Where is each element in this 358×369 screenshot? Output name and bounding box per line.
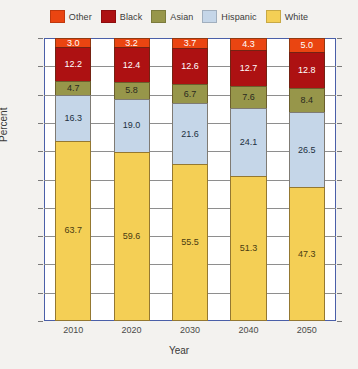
y-tick-mark-right-80 bbox=[337, 95, 342, 96]
bar-segment-white-2040[interactable]: 51.3 bbox=[230, 176, 266, 321]
legend-swatch-black bbox=[101, 10, 116, 23]
x-tick-label-2050: 2050 bbox=[278, 325, 336, 335]
legend-item-white: White bbox=[266, 10, 309, 23]
bar-segment-other-2040[interactable]: 4.3 bbox=[230, 38, 266, 50]
x-tick-label-2010: 2010 bbox=[44, 325, 102, 335]
bar-segment-other-2050[interactable]: 5.0 bbox=[289, 38, 325, 52]
y-tick-mark-right-40 bbox=[337, 208, 342, 209]
legend-label-hispanic: Hispanic bbox=[221, 12, 256, 22]
stacked-bar-2050[interactable]: 5.012.88.426.547.3 bbox=[289, 38, 325, 321]
stacked-bar-2020[interactable]: 3.212.45.819.059.6 bbox=[114, 38, 150, 321]
legend-label-white: White bbox=[285, 12, 309, 22]
bar-segment-black-2040[interactable]: 12.7 bbox=[230, 50, 266, 86]
y-tick-mark-right-20 bbox=[337, 264, 342, 265]
bar-segment-hispanic-2020[interactable]: 19.0 bbox=[114, 99, 150, 153]
legend-swatch-white bbox=[266, 10, 281, 23]
y-axis-title: Percent bbox=[0, 108, 9, 142]
bar-segment-white-2030[interactable]: 55.5 bbox=[172, 164, 208, 321]
bar-segment-hispanic-2030[interactable]: 21.6 bbox=[172, 103, 208, 164]
bar-segment-white-2050[interactable]: 47.3 bbox=[289, 187, 325, 321]
legend-swatch-other bbox=[50, 10, 65, 23]
chart-plot-area: 0102030405060708090100 3.012.24.716.363.… bbox=[44, 38, 336, 321]
legend-item-black: Black bbox=[101, 10, 143, 23]
bar-slot-2020: 3.212.45.819.059.6 bbox=[102, 38, 160, 321]
x-axis-title: Year bbox=[0, 345, 358, 356]
legend-label-asian: Asian bbox=[170, 12, 193, 22]
y-tick-mark-left-50 bbox=[38, 180, 43, 181]
bar-segment-other-2030[interactable]: 3.7 bbox=[172, 38, 208, 48]
y-tick-mark-right-70 bbox=[337, 123, 342, 124]
bar-segment-asian-2010[interactable]: 4.7 bbox=[55, 81, 91, 94]
bar-segment-asian-2020[interactable]: 5.8 bbox=[114, 82, 150, 98]
bar-segment-asian-2050[interactable]: 8.4 bbox=[289, 88, 325, 112]
stacked-bar-2030[interactable]: 3.712.66.721.655.5 bbox=[172, 38, 208, 321]
bar-segment-white-2020[interactable]: 59.6 bbox=[114, 152, 150, 321]
x-axis-ticks: 20102020203020402050 bbox=[44, 325, 336, 335]
y-tick-mark-left-70 bbox=[38, 123, 43, 124]
bar-segment-asian-2030[interactable]: 6.7 bbox=[172, 84, 208, 103]
bar-segment-white-2010[interactable]: 63.7 bbox=[55, 141, 91, 321]
y-tick-mark-left-60 bbox=[38, 151, 43, 152]
legend-item-asian: Asian bbox=[151, 10, 193, 23]
y-tick-mark-right-0 bbox=[337, 321, 342, 322]
y-tick-mark-left-20 bbox=[38, 264, 43, 265]
bar-segment-other-2020[interactable]: 3.2 bbox=[114, 38, 150, 47]
legend-label-black: Black bbox=[120, 12, 143, 22]
bar-segment-hispanic-2050[interactable]: 26.5 bbox=[289, 112, 325, 187]
y-tick-mark-left-30 bbox=[38, 236, 43, 237]
y-tick-mark-left-80 bbox=[38, 95, 43, 96]
bar-slot-2040: 4.312.77.624.151.3 bbox=[219, 38, 277, 321]
bar-segment-hispanic-2010[interactable]: 16.3 bbox=[55, 95, 91, 141]
stacked-bars: 3.012.24.716.363.73.212.45.819.059.63.71… bbox=[44, 38, 336, 321]
x-tick-label-2030: 2030 bbox=[161, 325, 219, 335]
legend-item-hispanic: Hispanic bbox=[202, 10, 256, 23]
y-tick-mark-right-90 bbox=[337, 66, 342, 67]
y-tick-mark-left-90 bbox=[38, 66, 43, 67]
y-tick-mark-right-50 bbox=[337, 180, 342, 181]
legend-label-other: Other bbox=[69, 12, 92, 22]
stacked-bar-2040[interactable]: 4.312.77.624.151.3 bbox=[230, 38, 266, 321]
y-tick-mark-left-40 bbox=[38, 208, 43, 209]
y-tick-mark-right-100 bbox=[337, 38, 342, 39]
bar-segment-black-2020[interactable]: 12.4 bbox=[114, 47, 150, 82]
y-tick-mark-right-60 bbox=[337, 151, 342, 152]
bar-slot-2010: 3.012.24.716.363.7 bbox=[44, 38, 102, 321]
bar-segment-hispanic-2040[interactable]: 24.1 bbox=[230, 108, 266, 176]
y-tick-mark-right-10 bbox=[337, 293, 342, 294]
bar-segment-other-2010[interactable]: 3.0 bbox=[55, 38, 91, 46]
legend-swatch-asian bbox=[151, 10, 166, 23]
bar-segment-black-2010[interactable]: 12.2 bbox=[55, 47, 91, 82]
legend-item-other: Other bbox=[50, 10, 92, 23]
stacked-bar-2010[interactable]: 3.012.24.716.363.7 bbox=[55, 38, 91, 321]
bar-segment-black-2030[interactable]: 12.6 bbox=[172, 48, 208, 84]
bar-slot-2030: 3.712.66.721.655.5 bbox=[161, 38, 219, 321]
y-tick-mark-left-0 bbox=[38, 321, 43, 322]
y-tick-mark-left-10 bbox=[38, 293, 43, 294]
y-tick-mark-right-30 bbox=[337, 236, 342, 237]
bar-slot-2050: 5.012.88.426.547.3 bbox=[278, 38, 336, 321]
bar-segment-black-2050[interactable]: 12.8 bbox=[289, 52, 325, 88]
y-tick-mark-left-100 bbox=[38, 38, 43, 39]
legend-swatch-hispanic bbox=[202, 10, 217, 23]
chart-legend: OtherBlackAsianHispanicWhite bbox=[0, 10, 358, 23]
bar-segment-asian-2040[interactable]: 7.6 bbox=[230, 86, 266, 108]
x-tick-label-2020: 2020 bbox=[102, 325, 160, 335]
x-tick-label-2040: 2040 bbox=[219, 325, 277, 335]
